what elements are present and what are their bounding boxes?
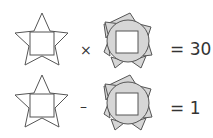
sun-shape [104,75,152,130]
equals-result-row-2: = 1 [170,100,200,117]
star-shape [15,13,68,65]
row-1 [15,13,152,68]
equals-result-row-1: = 30 [170,41,211,58]
star-shape [15,75,68,127]
multiply-operator: × [80,43,92,57]
minus-operator: – [80,99,87,113]
sun-shape [104,13,152,68]
